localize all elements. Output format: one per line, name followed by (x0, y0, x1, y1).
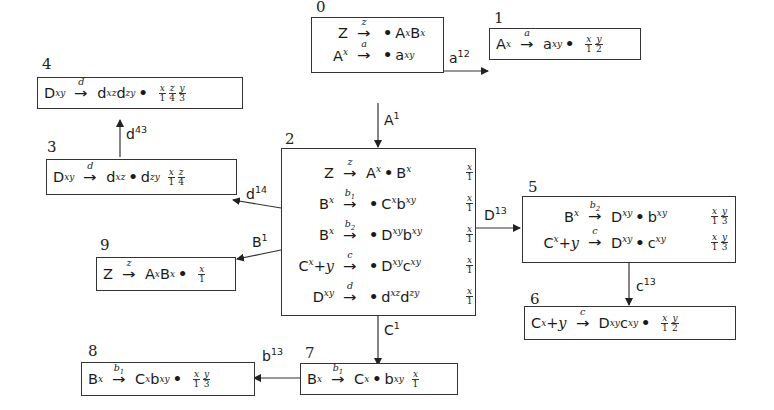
arrow-icon: z→ (339, 165, 361, 181)
rule: Dxy d→ dxz•dzy x1 z4 (53, 166, 236, 188)
node-id-5: 5 (528, 178, 538, 196)
arrow-icon: d→ (79, 169, 101, 185)
arrow-icon: b2→ (584, 208, 606, 224)
node-id-9: 9 (100, 236, 110, 254)
rule: Z z→ Ax•Bx x1 (288, 157, 475, 188)
fractions: x1 (466, 225, 473, 244)
rule: Ax a→ axy• x1 y2 (496, 33, 640, 55)
node-id-2: 2 (285, 130, 295, 148)
fractions: x1 y3 (711, 207, 728, 226)
fractions: x1 y2 (585, 35, 602, 54)
arrow-icon: c→ (339, 258, 361, 274)
rule: Z z→ •AxBx (318, 22, 443, 44)
node-id-3: 3 (47, 138, 57, 156)
fractions: x1 y3 (193, 370, 210, 389)
node-4[interactable]: Dxy d→ dxzdzy• x1 z4 y3 (37, 77, 243, 109)
fractions: x1 (466, 163, 473, 182)
edge-label-a12: a12 (449, 48, 470, 66)
fractions: x1 (412, 370, 419, 389)
node-id-4: 4 (42, 55, 52, 73)
arrow-icon: a→ (353, 47, 375, 63)
rule: Ax a→ •axy (318, 44, 443, 66)
rule: Bx b2→ Dxy•bxy x1 y3 (529, 203, 735, 229)
node-3[interactable]: Dxy d→ dxz•dzy x1 z4 (46, 159, 237, 195)
arrow-icon: z→ (118, 266, 140, 282)
arrow-icon: c→ (584, 234, 606, 250)
arrow-icon: b1→ (339, 196, 361, 212)
edge-label-c13: c13 (636, 276, 656, 294)
edge-label-C1: C1 (384, 320, 400, 338)
rule: Bx b1→ •Cxbxy x1 (288, 188, 475, 219)
rule-lhs: Z (318, 25, 348, 41)
fractions: x1 z4 (168, 168, 185, 187)
node-1[interactable]: Ax a→ axy• x1 y2 (489, 28, 641, 60)
node-id-1: 1 (494, 9, 504, 27)
arrow-icon: b1→ (108, 371, 130, 387)
rule: Z z→ AxBx• x1 (103, 263, 235, 285)
node-id-8: 8 (88, 342, 98, 360)
rule: Dxy d→ •dxzdzy x1 (288, 281, 475, 312)
arrow-icon: d→ (70, 85, 92, 101)
node-0[interactable]: Z z→ •AxBx Ax a→ •axy (311, 17, 444, 73)
node-7[interactable]: Bx b1→ Cx•bxy x1 (300, 363, 458, 395)
edge-2-9 (237, 250, 281, 259)
edge-label-b13: b13 (262, 346, 283, 364)
rule-lhs: Ax (318, 47, 348, 64)
fractions: x1 y2 (661, 314, 678, 333)
edge-label-d14: d14 (246, 184, 267, 202)
rule: Cx+y c→ Dxycxy• x1 y2 (531, 312, 735, 334)
edge-label-A1: A1 (384, 110, 400, 128)
edge-label-d43: d43 (126, 124, 147, 142)
fractions: x1 (198, 265, 205, 284)
rule: Dxy d→ dxzdzy• x1 z4 y3 (44, 82, 242, 104)
fractions: x1 y3 (711, 233, 728, 252)
arrow-icon: b2→ (339, 227, 361, 243)
rule: Bx b2→ •Dxybxy x1 (288, 219, 475, 250)
node-id-0: 0 (316, 0, 326, 16)
fractions: x1 (466, 256, 473, 275)
node-2[interactable]: Z z→ Ax•Bx x1 Bx b1→ •Cxbxy x1 Bx b2→ •D… (281, 148, 476, 316)
node-9[interactable]: Z z→ AxBx• x1 (96, 257, 236, 291)
node-8[interactable]: Bx b1→ Cxbxy• x1 y3 (81, 362, 255, 396)
node-6[interactable]: Cx+y c→ Dxycxy• x1 y2 (524, 306, 736, 340)
node-id-7: 7 (305, 344, 315, 362)
rule: Bx b1→ Cxbxy• x1 y3 (88, 368, 254, 390)
arrow-icon: a→ (516, 36, 538, 52)
fractions: x1 (466, 194, 473, 213)
edge-label-D13: D13 (484, 205, 507, 223)
rule: Cx+y c→ Dxy•cxy x1 y3 (529, 229, 735, 255)
rule: Cx+y c→ •Dxycxy x1 (288, 250, 475, 281)
rule: Bx b1→ Cx•bxy x1 (307, 368, 457, 390)
fractions: x1 z4 y3 (159, 84, 186, 103)
arrow-icon: d→ (339, 289, 361, 305)
edge-label-B1: B1 (252, 232, 268, 250)
arrow-icon: c→ (572, 315, 594, 331)
fractions: x1 (466, 287, 473, 306)
arrow-icon: b1→ (327, 371, 349, 387)
node-5[interactable]: Bx b2→ Dxy•bxy x1 y3 Cx+y c→ Dxy•cxy x1 … (522, 196, 736, 263)
